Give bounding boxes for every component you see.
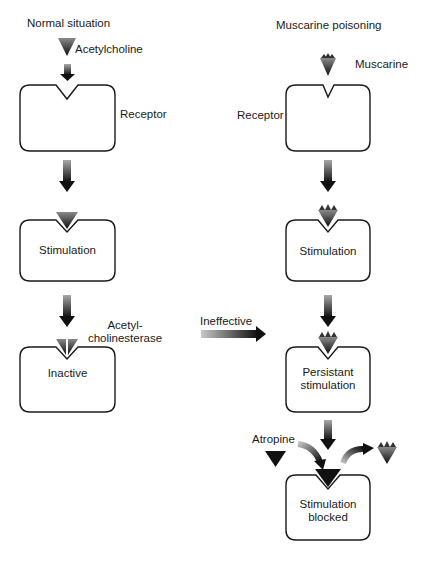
stimulation-label-left: Stimulation	[20, 244, 115, 257]
ineffective-arrow-icon	[201, 326, 266, 342]
receptor-label-left: Receptor	[120, 108, 167, 121]
atropine-label: Atropine	[252, 433, 295, 446]
inactive-label: Inactive	[20, 367, 115, 380]
arrow-down-icon	[59, 295, 75, 327]
blocked-label-1: Stimulation	[286, 498, 370, 511]
left-column-title: Normal situation	[27, 17, 110, 30]
arrow-down-small-icon	[60, 64, 75, 81]
persistent-label-1: Persistant	[286, 366, 370, 379]
acetylcholine-icon	[58, 38, 76, 56]
atropine-icon	[265, 451, 286, 467]
stimulation-label-right: Stimulation	[286, 245, 370, 258]
arrow-down-icon	[320, 420, 336, 450]
diagram-canvas	[0, 0, 425, 561]
curved-arrow-in-icon	[298, 444, 326, 470]
stimulation-box	[286, 204, 370, 281]
muscarine-label: Muscarine	[355, 58, 408, 71]
curved-arrow-out-icon	[343, 443, 374, 463]
acetylcholinesterase-label-1: Acetyl-	[85, 319, 165, 332]
arrow-down-icon	[320, 160, 336, 192]
acetylcholinesterase-label-2: cholinesterase	[85, 332, 165, 345]
arrow-down-icon	[59, 160, 75, 192]
ineffective-label: Ineffective	[200, 315, 252, 328]
muscarine-icon	[320, 53, 336, 76]
right-column-title: Muscarine poisoning	[276, 19, 381, 32]
receptor-box	[286, 85, 370, 151]
acetylcholine-bound-icon	[56, 212, 78, 229]
persistent-label-2: stimulation	[286, 379, 370, 392]
blocked-label-2: blocked	[286, 511, 370, 524]
receptor-box	[20, 85, 115, 151]
displaced-muscarine-icon	[377, 441, 397, 464]
acetylcholine-label: Acetylcholine	[75, 43, 143, 56]
arrow-down-icon	[320, 295, 336, 327]
receptor-label-right: Receptor	[237, 109, 284, 122]
